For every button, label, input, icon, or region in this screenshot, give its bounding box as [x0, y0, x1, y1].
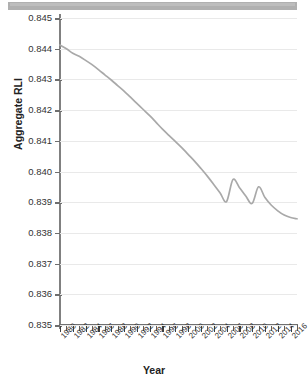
scrollbar-thumb[interactable]	[10, 3, 295, 6]
y-tick-label: 0.839	[6, 196, 52, 207]
y-tick-label: 0.841	[6, 135, 52, 146]
window-chrome-bar[interactable]	[8, 2, 297, 10]
plot-area	[60, 18, 297, 325]
y-tick-label: 0.837	[6, 258, 52, 269]
series-aggregate-rli	[60, 18, 297, 325]
y-tick-label: 0.838	[6, 227, 52, 238]
y-tick-label: 0.840	[6, 166, 52, 177]
y-tick-label: 0.842	[6, 104, 52, 115]
x-axis-title: Year	[0, 364, 308, 376]
y-tick-label: 0.836	[6, 288, 52, 299]
y-tick-label: 0.844	[6, 43, 52, 54]
y-tick-label: 0.845	[6, 12, 52, 23]
chart-figure: Aggregate RLI Year 0.8450.8440.8430.8420…	[0, 0, 308, 384]
y-tick-label: 0.835	[6, 319, 52, 330]
gridline	[60, 325, 297, 326]
y-tick-label: 0.843	[6, 73, 52, 84]
